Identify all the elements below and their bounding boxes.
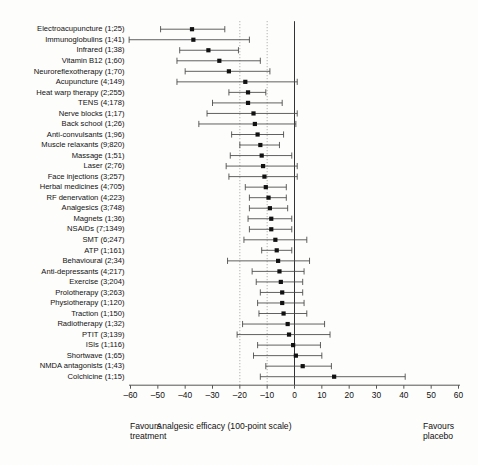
study-label: ATP (1;161) (84, 247, 124, 255)
study-label: Traction (1;150) (71, 310, 124, 318)
point-estimate-marker (280, 301, 284, 305)
point-estimate-marker (287, 332, 291, 336)
forest-row (185, 68, 270, 74)
point-estimate-marker (280, 290, 284, 294)
point-estimate-marker (269, 217, 273, 221)
study-label: Prolotherapy (3;263) (55, 289, 124, 297)
study-label: Exercise (3;204) (69, 278, 124, 286)
study-label: Heat warp therapy (2;255) (36, 89, 124, 97)
forest-row (229, 89, 266, 95)
study-label: Radiotherapy (1;32) (57, 320, 124, 328)
study-label: Nerve blocks (1;17) (59, 110, 125, 118)
forest-row (237, 331, 330, 337)
forest-row (129, 37, 249, 43)
point-estimate-marker (291, 343, 295, 347)
study-label: Colchicine (1;15) (68, 373, 125, 381)
forest-row (266, 363, 332, 369)
x-axis-title: Analgesic efficacy (100-point scale) (156, 421, 291, 431)
point-estimate-marker (190, 27, 194, 31)
study-label: ISIs (1;116) (86, 341, 125, 349)
study-label: NSAIDs (7;1349) (67, 225, 124, 233)
study-label: Massage (1;51) (72, 152, 125, 160)
point-estimate-marker (262, 175, 266, 179)
forest-row (249, 205, 287, 211)
point-estimate-marker (276, 259, 280, 263)
point-estimate-marker (301, 364, 305, 368)
x-tick-label: –20 (233, 391, 247, 399)
point-estimate-marker (281, 311, 285, 315)
forest-row (244, 237, 307, 243)
study-label: Neuroreflexotherapy (1;70) (34, 68, 125, 76)
forest-row (226, 163, 297, 169)
forest-row (259, 310, 307, 316)
x-tick-label: 20 (344, 391, 353, 399)
point-estimate-marker (273, 238, 277, 242)
x-tick-label: 40 (399, 391, 408, 399)
study-label: Back school (1;26) (62, 120, 125, 128)
forest-row (207, 110, 297, 116)
point-estimate-marker (277, 269, 281, 273)
forest-row (258, 300, 304, 306)
study-label: TENS (4;178) (78, 99, 124, 107)
point-estimate-marker (256, 132, 260, 136)
point-estimate-marker (260, 153, 264, 157)
study-label: RF denervation (4;223) (46, 194, 124, 202)
point-estimate-marker (261, 164, 265, 168)
forest-row (177, 79, 297, 85)
forest-row (243, 321, 325, 327)
study-label: Anti-depressants (4;217) (41, 268, 124, 276)
study-label: Electroacupuncture (1;25) (37, 25, 124, 33)
forest-row (252, 268, 304, 274)
point-estimate-marker (191, 38, 195, 42)
forest-row (249, 226, 291, 232)
study-label: Infrared (1;38) (76, 46, 124, 54)
point-estimate-marker (286, 322, 290, 326)
study-label: Behavioural (2;34) (62, 257, 124, 265)
x-tick-label: 30 (372, 391, 381, 399)
forest-row (161, 26, 225, 32)
x-tick-label: 50 (426, 391, 435, 399)
x-tick-label: 60 (454, 391, 463, 399)
x-tick-label: –40 (178, 391, 192, 399)
point-estimate-marker (246, 101, 250, 105)
study-label: SMT (6;247) (82, 236, 124, 244)
study-label: Face injections (3;257) (48, 173, 125, 181)
forest-row (199, 121, 296, 127)
x-tick-label: 10 (317, 391, 326, 399)
x-tick-label: –60 (124, 391, 138, 399)
point-estimate-marker (269, 227, 273, 231)
study-label: Magnets (1;36) (73, 215, 124, 223)
point-estimate-marker (246, 90, 250, 94)
point-estimate-marker (258, 143, 262, 147)
forest-row (229, 174, 297, 180)
point-estimate-marker (243, 80, 247, 84)
forest-row (260, 374, 405, 380)
study-label: Acupuncture (4;149) (56, 78, 125, 86)
point-estimate-marker (206, 48, 210, 52)
forest-row (248, 216, 292, 222)
forest-row (180, 47, 239, 53)
point-estimate-marker (217, 59, 221, 63)
x-tick-label: –10 (260, 391, 274, 399)
study-label: Immunoglobulins (1;41) (45, 36, 124, 44)
x-tick-label: –30 (206, 391, 220, 399)
x-tick-label: –50 (151, 391, 165, 399)
study-label: PTIT (3;139) (82, 331, 125, 339)
forest-row (177, 58, 260, 64)
study-label: Laser (2;76) (84, 162, 125, 170)
study-label: NMDA antagonists (1;43) (40, 362, 125, 370)
study-label: Anti-convulsants (1;96) (47, 131, 125, 139)
study-label: Analgesics (3;748) (62, 204, 125, 212)
forest-row (245, 184, 286, 190)
point-estimate-marker (294, 354, 298, 358)
point-estimate-marker (279, 280, 283, 284)
favours-placebo-caption: Favours placebo (423, 421, 454, 441)
forest-row (213, 100, 283, 106)
forest-row (240, 142, 280, 148)
study-label: Muscle relaxants (9;820) (41, 141, 124, 149)
study-label: Vitamin B12 (1;60) (62, 57, 125, 65)
point-estimate-marker (251, 111, 255, 115)
forest-row (256, 279, 302, 285)
forest-row (262, 247, 292, 253)
point-estimate-marker (332, 375, 336, 379)
